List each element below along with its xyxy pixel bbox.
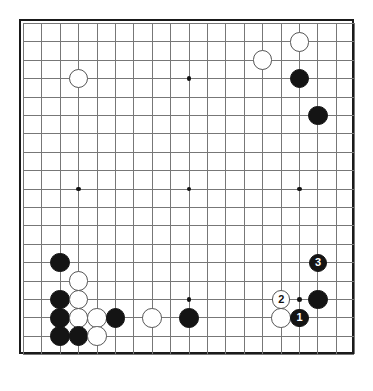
star-point (187, 187, 192, 192)
go-board-diagram: 321 (0, 0, 373, 391)
grid-line-vertical (336, 23, 337, 354)
grid-line-vertical (225, 23, 226, 354)
stone-black (290, 69, 310, 89)
grid-line-horizontal (23, 244, 354, 245)
stone-black (50, 253, 70, 273)
grid-line-horizontal (23, 262, 354, 263)
stone-black (308, 106, 328, 126)
stone-white (69, 271, 89, 291)
stone-black (50, 308, 70, 328)
stone-white (69, 308, 89, 328)
stone-white (142, 308, 162, 328)
grid-line-horizontal (23, 225, 354, 226)
stone-white (69, 69, 89, 89)
grid-line-vertical (244, 23, 245, 354)
stone-white (87, 326, 107, 346)
stone-black (308, 290, 328, 310)
star-point (187, 297, 192, 302)
stone-white (290, 32, 310, 52)
board-frame: 321 (19, 19, 355, 355)
grid-line-vertical (262, 23, 263, 354)
stone-white (69, 290, 89, 310)
stone-black (106, 308, 126, 328)
move-stone-1: 1 (290, 309, 308, 327)
move-number-label: 3 (310, 255, 326, 271)
stone-black (50, 326, 70, 346)
star-point (297, 187, 302, 192)
stone-black (179, 308, 199, 328)
star-point (187, 76, 192, 81)
grid-line-horizontal (23, 207, 354, 208)
stone-black (69, 326, 89, 346)
star-point (297, 297, 302, 302)
stone-white (271, 308, 291, 328)
grid-line-vertical (354, 23, 355, 354)
star-point (76, 187, 81, 192)
grid-line-horizontal (23, 354, 354, 355)
move-stone-2: 2 (272, 290, 290, 308)
move-number-label: 2 (273, 291, 289, 307)
grid-line-vertical (207, 23, 208, 354)
stone-black (50, 290, 70, 310)
stone-white (87, 308, 107, 328)
move-stone-3: 3 (309, 254, 327, 272)
stone-white (253, 50, 273, 70)
move-number-label: 1 (291, 310, 307, 326)
